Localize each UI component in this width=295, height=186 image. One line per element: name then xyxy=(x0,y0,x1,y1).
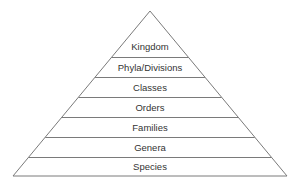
level-label-kingdom: Kingdom xyxy=(131,41,169,52)
level-label-classes: Classes xyxy=(133,82,167,93)
level-label-orders: Orders xyxy=(135,102,164,113)
level-label-genera: Genera xyxy=(134,142,166,153)
level-label-families: Families xyxy=(132,122,168,133)
level-label-species: Species xyxy=(133,161,167,172)
level-label-phyla: Phyla/Divisions xyxy=(118,62,183,73)
taxonomy-pyramid: Kingdom Phyla/Divisions Classes Orders F… xyxy=(0,0,295,186)
